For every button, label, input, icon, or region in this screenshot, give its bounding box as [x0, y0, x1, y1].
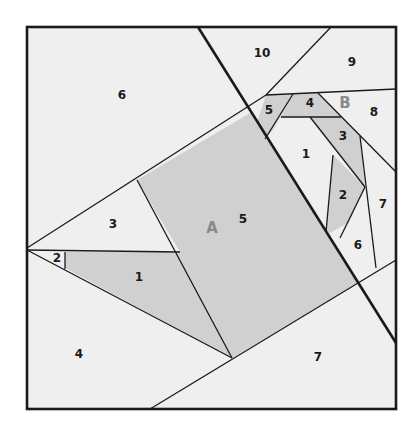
piece-label-a5: 5: [239, 212, 247, 226]
piece-label-b3: 3: [339, 129, 347, 143]
piece-label-a4: 4: [75, 347, 83, 361]
foundation-pattern-diagram: A B 1 2 3 4 5 6 7 1 2 3 4 5 6 7 8 9 10: [0, 0, 420, 434]
section-label-b: B: [339, 94, 350, 112]
piece-label-a1: 1: [135, 270, 143, 284]
piece-label-b4: 4: [306, 96, 314, 110]
piece-label-b8: 8: [370, 105, 378, 119]
piece-label-a3: 3: [109, 217, 117, 231]
piece-label-b6: 6: [354, 238, 362, 252]
piece-label-b9: 9: [348, 55, 356, 69]
piece-label-b5: 5: [265, 103, 273, 117]
piece-label-a6: 6: [118, 88, 126, 102]
piece-label-b2: 2: [339, 188, 347, 202]
piece-label-a7: 7: [314, 350, 322, 364]
piece-label-b1: 1: [302, 147, 310, 161]
piece-label-a2: 2: [53, 251, 61, 265]
section-label-a: A: [206, 219, 218, 237]
piece-label-b7: 7: [379, 197, 387, 211]
piece-label-b10: 10: [254, 46, 271, 60]
